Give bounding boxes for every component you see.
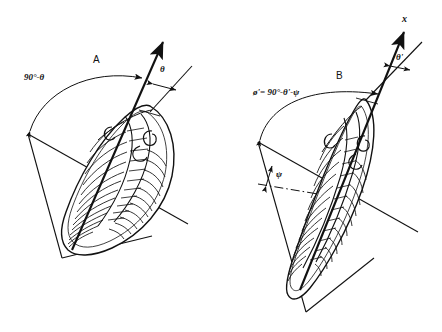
figure-root: A 90°-θ θ <box>0 0 442 332</box>
panel-b-letter: B <box>336 70 343 81</box>
panel-a-arc-label: 90°-θ <box>24 72 45 82</box>
canvas-background <box>0 0 442 332</box>
diagram-canvas: A 90°-θ θ <box>0 0 442 332</box>
panel-b-wedge-label: θ' <box>396 52 404 62</box>
panel-b-axis-label: x <box>401 13 407 24</box>
panel-a-letter: A <box>93 54 100 65</box>
panel-b-arc-label: ø'= 90°-θ'-ψ <box>252 87 300 97</box>
panel-b-shear-label: ψ <box>276 169 283 179</box>
panel-a-wedge-label: θ <box>160 64 165 74</box>
